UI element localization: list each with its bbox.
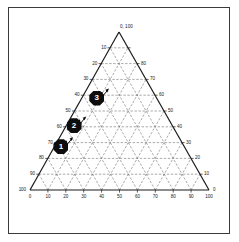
bottom-axis-tick-label: 50 [117,195,122,200]
bottom-axis-tick-label: 80 [171,195,176,200]
data-point-marker-3[interactable]: 3 [89,91,104,106]
figure-root: 1009080706050403020108070605040302010001… [0,0,239,242]
right-axis-tick-label: 10 [204,172,209,177]
bottom-axis-tick-label: 20 [63,195,68,200]
left-axis-tick-label: 100 [19,188,26,193]
right-axis-tick-label: 70 [150,77,155,82]
grid-lines-group [39,48,200,190]
ternary-plot-svg [0,0,239,242]
right-axis-tick-label: 50 [168,109,173,114]
left-axis-tick-label: 40 [74,93,79,98]
ternary-plot-area: 1009080706050403020108070605040302010001… [0,0,239,242]
grid-line-left-parallel [191,174,200,190]
bottom-axis-tick-label: 90 [189,195,194,200]
bottom-axis-tick-label: 70 [153,195,158,200]
right-axis-tick-label: 80 [141,61,146,66]
triangle-edge-left [30,32,119,190]
data-point-marker-1[interactable]: 1 [53,139,68,154]
bottom-axis-tick-label: 100 [205,195,212,200]
left-axis-tick-label: 20 [92,61,97,66]
right-axis-tick-label: 20 [195,156,200,161]
left-axis-tick-label: 30 [83,77,88,82]
right-axis-tick-label: 40 [177,125,182,130]
left-axis-tick-label: 70 [48,140,53,145]
left-axis-tick-label: 80 [39,156,44,161]
left-axis-tick-label: 50 [66,109,71,114]
right-axis-tick-label: 60 [159,93,164,98]
bottom-axis-tick-label: 10 [45,195,50,200]
grid-line-left-parallel [48,48,128,190]
left-axis-tick-label: 60 [57,125,62,130]
grid-line-right-parallel [39,174,48,190]
grid-line-left-parallel [120,111,165,190]
bottom-axis-tick-label: 30 [81,195,86,200]
bottom-axis-tick-label: 60 [135,195,140,200]
grid-line-left-parallel [155,143,182,190]
right-axis-tick-label: 0 [213,188,215,193]
grid-line-right-parallel [110,48,191,190]
left-axis-tick-label: 10 [101,46,106,51]
data-point-marker-2[interactable]: 2 [67,118,82,133]
left-axis-tick-label: 90 [30,172,35,177]
right-axis-tick-label: 30 [186,140,191,145]
tick-marks-group [36,48,202,193]
bottom-axis-tick-label: 40 [99,195,104,200]
apex-label: 0, 100 [120,25,133,30]
bottom-axis-tick-label: 0 [29,195,31,200]
